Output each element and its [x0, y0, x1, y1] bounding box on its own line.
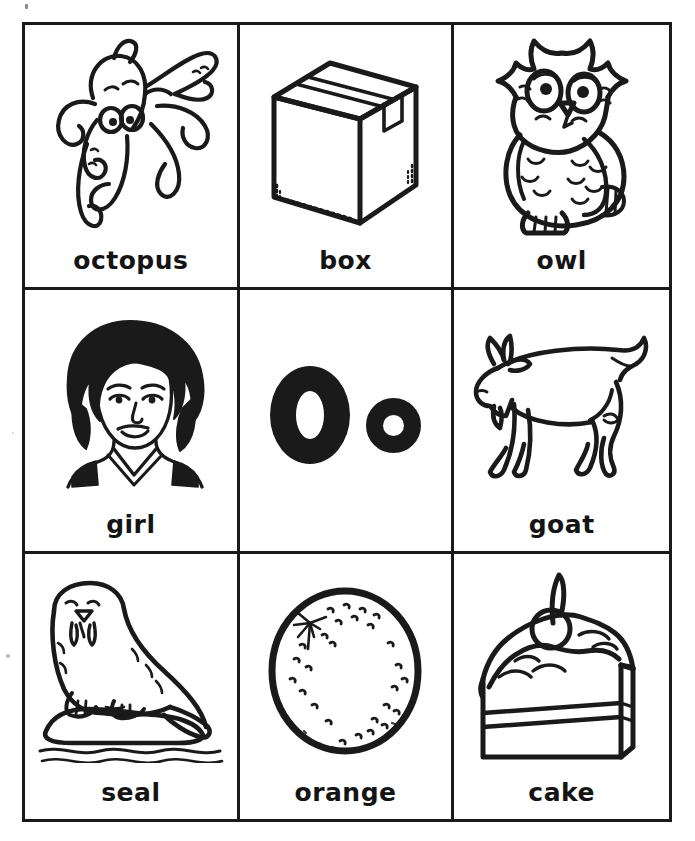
cell-label: [240, 537, 452, 551]
chart-cell-box[interactable]: box: [240, 25, 455, 290]
girl-face-icon: [25, 290, 237, 513]
chart-cell-letter-oo[interactable]: [240, 290, 455, 555]
chart-cell-seal[interactable]: seal: [25, 554, 240, 819]
cardboard-box-icon: [240, 25, 452, 248]
chart-cell-cake[interactable]: cake: [454, 554, 669, 819]
chart-cell-octopus[interactable]: octopus: [25, 25, 240, 290]
cake-slice-icon: [454, 554, 669, 780]
seal-on-ice-icon: [25, 554, 237, 780]
chart-cell-owl[interactable]: owl: [454, 25, 669, 290]
scan-speck: [6, 654, 10, 658]
scan-speck: [25, 4, 28, 9]
picture-chart-grid: octopus box: [22, 22, 672, 822]
letter-oo-glyphs-icon: [240, 290, 452, 538]
goat-icon: [454, 290, 669, 513]
owl-icon: [454, 25, 669, 248]
cell-label: seal: [25, 780, 237, 819]
cell-label: goat: [454, 512, 669, 551]
orange-fruit-icon: [240, 554, 452, 780]
cell-label: girl: [25, 512, 237, 551]
octopus-icon: [25, 25, 237, 248]
lowercase-o-glyph: [366, 398, 421, 453]
cell-label: orange: [240, 780, 452, 819]
uppercase-o-glyph: [270, 366, 350, 464]
scan-speck: [12, 432, 14, 434]
chart-cell-goat[interactable]: goat: [454, 290, 669, 555]
cell-label: box: [240, 248, 452, 287]
cell-label: octopus: [25, 248, 237, 287]
cell-label: cake: [454, 780, 669, 819]
chart-cell-orange[interactable]: orange: [240, 554, 455, 819]
chart-cell-girl[interactable]: girl: [25, 290, 240, 555]
cell-label: owl: [454, 248, 669, 287]
